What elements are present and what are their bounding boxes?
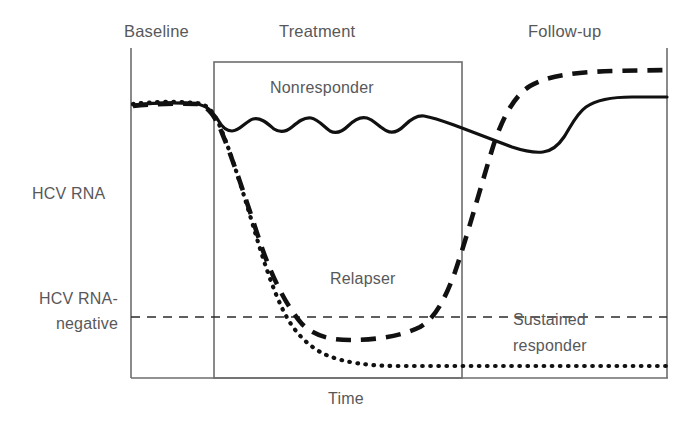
curve-label-sustained-responder: Sustained responder	[513, 307, 587, 359]
treatment-period-box	[214, 62, 462, 378]
y-axis-label: HCV RNA	[32, 185, 105, 203]
threshold-label-line2: negative	[18, 311, 118, 336]
x-axis-label: Time	[328, 390, 364, 408]
curve-label-sustained-line1: Sustained	[513, 307, 587, 333]
phase-label-followup: Follow-up	[528, 22, 601, 41]
threshold-label-hcv-rna-negative: HCV RNA- negative	[18, 286, 118, 336]
curve-label-sustained-line2: responder	[513, 333, 587, 359]
chart-canvas	[0, 0, 695, 432]
nonresponder-curve	[133, 97, 667, 152]
threshold-label-line1: HCV RNA-	[18, 286, 118, 311]
hcv-rna-figure: Baseline Treatment Follow-up Nonresponde…	[0, 0, 695, 432]
sustained-responder-curve	[133, 102, 667, 366]
phase-label-treatment: Treatment	[279, 22, 355, 41]
curve-label-nonresponder: Nonresponder	[270, 79, 374, 97]
phase-label-baseline: Baseline	[124, 22, 189, 41]
curve-label-relapser: Relapser	[330, 270, 396, 288]
